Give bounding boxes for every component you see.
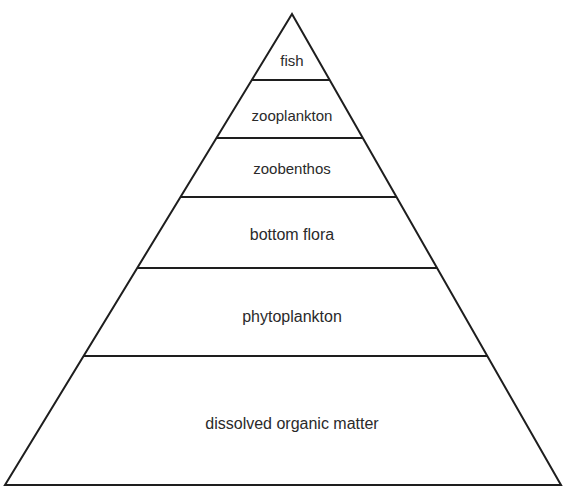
level-label-dissolved-organic-matter: dissolved organic matter: [205, 415, 379, 432]
level-label-phytoplankton: phytoplankton: [242, 308, 342, 325]
level-label-fish: fish: [280, 52, 303, 69]
level-labels: fish zooplankton zoobenthos bottom flora…: [205, 52, 379, 432]
level-label-zoobenthos: zoobenthos: [253, 160, 331, 177]
level-label-bottom-flora: bottom flora: [250, 226, 335, 243]
trophic-pyramid: fish zooplankton zoobenthos bottom flora…: [0, 0, 567, 498]
level-label-zooplankton: zooplankton: [252, 107, 333, 124]
